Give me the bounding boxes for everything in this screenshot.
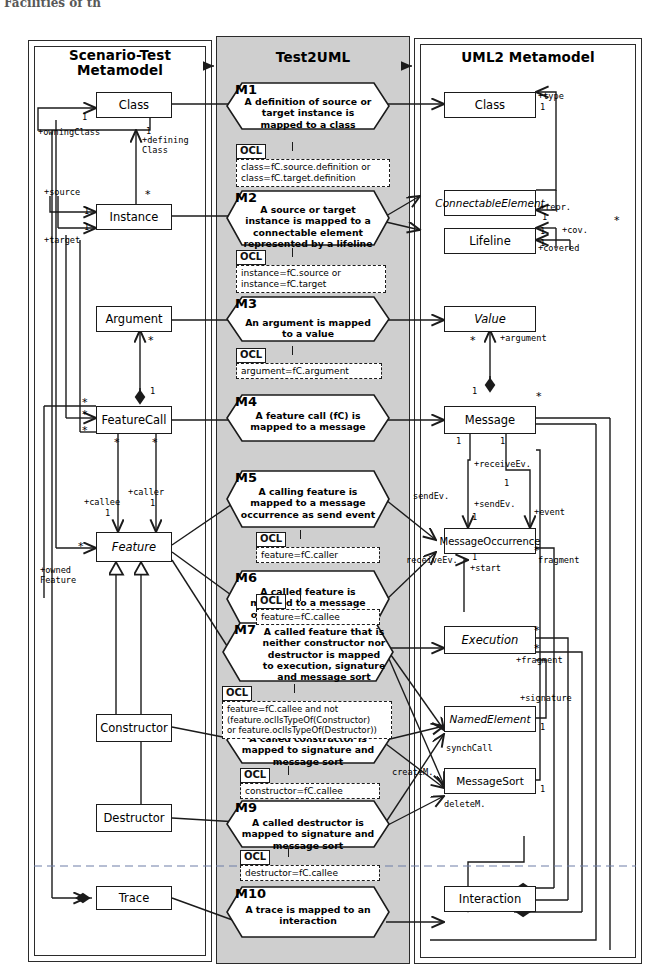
ocl-tag-4: OCL bbox=[256, 532, 286, 547]
mult-right-3c: 1 bbox=[504, 478, 509, 488]
mult-right-5b: * bbox=[534, 646, 540, 652]
ocl-group-5: OCL feature=fC.callee bbox=[256, 592, 380, 626]
mult-left-2b: 1 bbox=[84, 222, 89, 232]
mult-left-5c: 1 bbox=[105, 508, 110, 518]
mult-left-1c: * bbox=[145, 192, 151, 198]
ocl-body-5: feature=fC.callee bbox=[256, 609, 380, 625]
assoc-label-defining: +defining bbox=[142, 136, 189, 145]
mult-right-2b: 1 bbox=[472, 386, 477, 396]
mult-left-4b: * bbox=[82, 412, 88, 418]
ocl-group-7: OCL constructor=fC.callee bbox=[240, 766, 380, 800]
ocl-body-3: argument=fC.argument bbox=[236, 363, 382, 379]
class-box-destructor[interactable]: Destructor bbox=[96, 804, 172, 832]
rule-hex-m1[interactable]: M1 A definition of source or target inst… bbox=[226, 82, 390, 130]
assoc-label-event: +event bbox=[534, 508, 565, 517]
rule-hex-m4[interactable]: M4 A feature call (fC) is mapped to a me… bbox=[226, 394, 390, 442]
mult-right-6b: 1 bbox=[540, 784, 545, 794]
ocl-body-1: class=fC.source.definition or class=fC.t… bbox=[236, 159, 390, 187]
class-box-constructor[interactable]: Constructor bbox=[96, 714, 172, 742]
rule-text-m5: A calling feature is mapped to a message… bbox=[240, 486, 376, 520]
assoc-label-callee: +callee bbox=[84, 498, 120, 507]
assoc-label-synchcall: synchCall bbox=[446, 744, 493, 753]
class-box-message[interactable]: Message bbox=[444, 406, 536, 434]
mult-left-1a: 1 bbox=[82, 112, 87, 122]
class-box-feature[interactable]: Feature bbox=[96, 532, 172, 562]
mult-right-3b: 1 bbox=[500, 436, 505, 446]
ocl-stem-8 bbox=[288, 848, 289, 857]
ocl-line-8a: destructor=fC.callee bbox=[245, 868, 375, 879]
class-box-scenario-class[interactable]: Class bbox=[96, 92, 172, 118]
ocl-stem-7 bbox=[288, 766, 289, 775]
ocl-line-6c: or feature.oclIsTypeOf(Destructor)) bbox=[227, 725, 387, 736]
mult-left-3b: 1 bbox=[150, 386, 155, 396]
mult-left-5d: 1 bbox=[150, 498, 155, 508]
mult-right-2c: * bbox=[536, 394, 542, 400]
class-box-uml-class[interactable]: Class bbox=[444, 92, 536, 118]
ocl-stem-4 bbox=[300, 530, 301, 539]
ocl-line-2b: instance=fC.target bbox=[241, 279, 381, 290]
rule-text-m1: A definition of source or target instanc… bbox=[240, 96, 376, 130]
ocl-group-8: OCL destructor=fC.callee bbox=[240, 848, 380, 882]
rule-id-m5: M5 bbox=[235, 470, 257, 485]
rule-hex-m9[interactable]: M9 A called destructor is mapped to sign… bbox=[226, 800, 390, 848]
rule-hex-m2[interactable]: M2 A source or target instance is mapped… bbox=[226, 190, 390, 246]
class-box-value[interactable]: Value bbox=[444, 306, 536, 332]
class-box-messagesort[interactable]: MessageSort bbox=[444, 768, 536, 794]
ocl-body-4: feature=fC.caller bbox=[256, 547, 380, 563]
class-box-argument[interactable]: Argument bbox=[96, 306, 172, 332]
rule-hex-m3[interactable]: M3 An argument is mapped to a value bbox=[226, 296, 390, 342]
mult-right-6a: 1 bbox=[540, 722, 545, 732]
ocl-stem-6 bbox=[294, 684, 295, 693]
rule-id-m9: M9 bbox=[235, 800, 257, 815]
class-box-instance[interactable]: Instance bbox=[96, 204, 172, 230]
ocl-group-2: OCL instance=fC.source or instance=fC.ta… bbox=[236, 248, 386, 292]
mult-left-3a: * bbox=[148, 338, 154, 344]
class-box-interaction[interactable]: Interaction bbox=[444, 886, 536, 912]
ocl-line-2a: instance=fC.source or bbox=[241, 268, 381, 279]
rule-hex-m5[interactable]: M5 A calling feature is mapped to a mess… bbox=[226, 470, 390, 528]
mult-left-2a: 1 bbox=[84, 206, 89, 216]
assoc-label-owningclass: +owningClass bbox=[38, 128, 100, 137]
mult-left-1b: 1 bbox=[146, 126, 151, 136]
assoc-label-deletem: deleteM. bbox=[444, 800, 485, 809]
class-box-connectableelement[interactable]: ConnectableElement bbox=[444, 190, 536, 216]
ocl-line-3a: argument=fC.argument bbox=[241, 366, 377, 377]
assoc-label-caller: +caller bbox=[128, 488, 164, 497]
assoc-label-owned: +owned bbox=[40, 566, 71, 575]
ocl-body-7: constructor=fC.callee bbox=[240, 783, 380, 799]
ocl-line-4a: feature=fC.caller bbox=[261, 550, 375, 561]
class-box-messageoccurrence[interactable]: MessageOccurrence bbox=[444, 528, 536, 554]
diagram-root: Facilities of th Scenario-Test Metamodel… bbox=[0, 0, 662, 978]
assoc-label-receiveev: +receiveEv. bbox=[474, 460, 531, 469]
ocl-tag-2: OCL bbox=[236, 250, 266, 265]
class-box-namedelement[interactable]: NamedElement bbox=[444, 706, 536, 732]
mult-left-6a: * bbox=[78, 544, 84, 550]
assoc-label-receiveev-src: receiveEv. bbox=[406, 556, 458, 565]
mult-right-3a: 1 bbox=[456, 436, 461, 446]
ocl-group-3: OCL argument=fC.argument bbox=[236, 346, 382, 380]
ocl-stem-2 bbox=[292, 248, 293, 257]
rule-text-m4: A feature call (fC) is mapped to a messa… bbox=[240, 410, 376, 433]
assoc-label-fragment-2: +fragment bbox=[516, 656, 563, 665]
ocl-group-1: OCL class=fC.source.definition or class=… bbox=[236, 142, 390, 186]
rule-id-m6: M6 bbox=[235, 570, 257, 585]
ocl-stem-3 bbox=[292, 346, 293, 355]
ocl-tag-7: OCL bbox=[240, 768, 270, 783]
ocl-tag-1: OCL bbox=[236, 144, 266, 159]
rule-id-m4: M4 bbox=[235, 394, 257, 409]
ocl-line-6a: feature=fC.callee and not bbox=[227, 704, 387, 715]
rule-id-m2: M2 bbox=[235, 190, 257, 205]
mult-right-1a: 1 bbox=[540, 102, 545, 112]
class-box-trace[interactable]: Trace bbox=[96, 886, 172, 910]
class-box-execution[interactable]: Execution bbox=[444, 626, 536, 654]
rule-text-m3: An argument is mapped to a value bbox=[240, 317, 376, 340]
ocl-line-1a: class=fC.source.definition or bbox=[241, 162, 385, 173]
assoc-label-signature: +signature bbox=[520, 694, 572, 703]
rule-hex-m10[interactable]: M10 A trace is mapped to an interaction bbox=[226, 886, 390, 938]
assoc-label-repr: +repr. bbox=[540, 203, 571, 212]
rule-hex-m7[interactable]: M7 A called feature that is neither cons… bbox=[222, 622, 394, 682]
rule-id-m7: M7 bbox=[234, 622, 256, 637]
ocl-body-8: destructor=fC.callee bbox=[240, 865, 380, 881]
class-box-lifeline[interactable]: Lifeline bbox=[444, 228, 536, 254]
class-box-featurecall[interactable]: FeatureCall bbox=[96, 406, 172, 434]
